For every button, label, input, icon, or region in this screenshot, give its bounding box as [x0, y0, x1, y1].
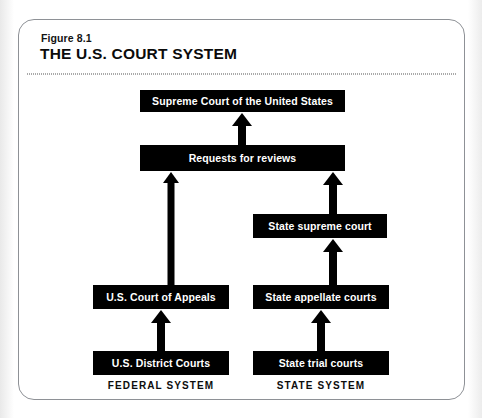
- node-state-trial-courts: State trial courts: [253, 351, 389, 375]
- node-supreme-court-of-the-united-states: Supreme Court of the United States: [140, 90, 345, 112]
- node-requests-for-reviews: Requests for reviews: [140, 145, 345, 171]
- arrow-up-icon-state-trial-to-state-appellate: [305, 310, 337, 352]
- court-system-flowchart: Supreme Court of the United States Reque…: [19, 20, 466, 401]
- arrow-up-icon-requests-to-supreme-court: [224, 113, 260, 144]
- node-us-court-of-appeals: U.S. Court of Appeals: [93, 285, 229, 309]
- arrow-shaft: [157, 320, 165, 353]
- arrow-shaft: [329, 249, 337, 287]
- node-state-appellate-courts: State appellate courts: [253, 285, 389, 309]
- node-state-supreme-court: State supreme court: [253, 214, 387, 238]
- column-caption-state-system: STATE SYSTEM: [253, 380, 389, 391]
- column-caption-federal-system: FEDERAL SYSTEM: [93, 380, 229, 391]
- arrow-shaft: [238, 125, 246, 145]
- arrow-up-icon-state-appellate-to-state-supreme: [317, 239, 349, 286]
- figure-card: Figure 8.1 THE U.S. COURT SYSTEM Supreme…: [18, 19, 465, 400]
- arrowhead: [163, 172, 179, 183]
- arrow-up-icon-state-supreme-court-to-requests: [317, 172, 349, 215]
- page-edge-shading-right: [468, 0, 482, 418]
- arrow-up-icon-us-court-of-appeals-to-requests: [153, 172, 189, 285]
- node-us-district-courts: U.S. District Courts: [93, 351, 229, 375]
- arrow-up-icon-us-district-to-court-of-appeals: [145, 310, 177, 352]
- arrow-shaft: [168, 183, 175, 286]
- arrow-shaft: [329, 182, 337, 216]
- arrow-shaft: [317, 320, 325, 353]
- page-edge-shading-left: [0, 0, 14, 418]
